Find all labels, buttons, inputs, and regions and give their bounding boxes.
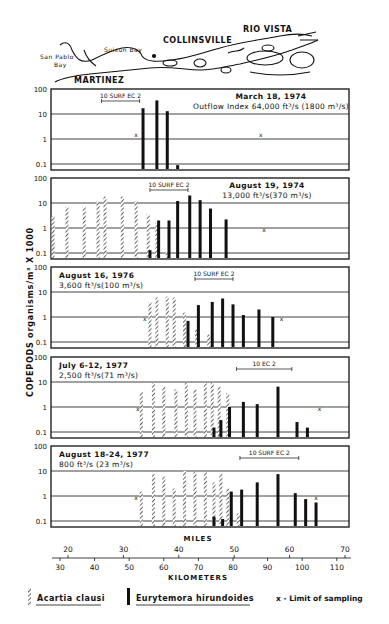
acartia-bar <box>162 387 165 437</box>
acartia-bar <box>204 383 207 437</box>
limit-of-sampling-marker: x <box>314 494 318 501</box>
limit-of-sampling-marker: x <box>134 131 138 138</box>
panel-2: 1001010.1x10 SURF EC 2August 19, 197413,… <box>34 175 349 259</box>
eurytemora-bar <box>276 387 279 437</box>
eurytemora-bar <box>294 493 297 526</box>
eurytemora-bar <box>197 305 200 347</box>
eurytemora-bar <box>148 250 151 258</box>
y-tick-label: 100 <box>34 443 47 451</box>
eurytemora-bar <box>176 165 179 169</box>
limit-of-sampling-marker: x <box>143 315 147 322</box>
y-tick-label: 1 <box>43 225 47 233</box>
y-tick-label: 10 <box>38 200 47 208</box>
acartia-bar <box>166 297 169 347</box>
y-tick-label: 0.1 <box>36 250 47 258</box>
map-label: San Pablo <box>40 53 74 60</box>
ec-range-label: 10 EC 2 <box>253 360 276 367</box>
acartia-bar <box>65 207 68 258</box>
y-tick-label: 1 <box>43 404 47 412</box>
panel-1: 1001010.1xx10 SURF EC 2March 18, 1974Out… <box>34 86 349 170</box>
acartia-bar <box>162 477 165 526</box>
eurytemora-bar <box>240 490 243 526</box>
eurytemora-bar <box>212 428 215 437</box>
panel-4: 1001010.1xx10 EC 2July 6-12, 19772,500 f… <box>34 354 349 438</box>
km-tick-label: 70 <box>194 563 204 572</box>
eurytemora-bar <box>211 302 214 347</box>
acartia-bar <box>204 472 207 526</box>
km-tick-label: 50 <box>124 563 134 572</box>
legend-eurytemora-label: Eurytemora hirundoides <box>136 594 254 603</box>
y-tick-label: 0.1 <box>36 339 47 347</box>
acartia-bar <box>183 471 186 526</box>
x-axis: MILES20304050607030405060708090100110KIL… <box>52 535 351 582</box>
acartia-bar <box>121 197 124 258</box>
map-island-3 <box>221 67 231 73</box>
eurytemora-bar <box>230 492 233 526</box>
suisun-bay-marker <box>153 55 156 58</box>
panel-subtitle: 2,500 ft³/s(71 m³/s) <box>59 371 138 380</box>
ec-range-label: 10 SURF EC 2 <box>100 92 141 99</box>
eurytemora-bar <box>296 422 299 437</box>
acartia-bar <box>207 334 210 347</box>
acartia-bar <box>148 302 151 347</box>
eurytemora-bar <box>155 100 158 169</box>
acartia-bar <box>155 298 158 347</box>
y-tick-label: 100 <box>34 86 47 94</box>
legend-limit-label: x - Limit of sampling <box>276 594 363 603</box>
mile-tick-label: 40 <box>174 545 184 554</box>
limit-of-sampling-marker: x <box>318 405 322 412</box>
acartia-bar <box>193 472 196 526</box>
panel-title: August 16, 1976 <box>59 271 134 280</box>
map-island-6 <box>262 45 274 51</box>
y-tick-label: 100 <box>34 175 47 183</box>
acartia-bar <box>140 492 143 526</box>
miles-axis-title: MILES <box>184 535 213 543</box>
map-slough <box>250 72 310 75</box>
legend-hatched-swatch <box>28 588 31 605</box>
y-tick-label: 0.1 <box>36 161 47 169</box>
eurytemora-bar <box>221 519 224 526</box>
panel-title: March 18, 1974 <box>236 92 307 101</box>
y-tick-label: 1 <box>43 136 47 144</box>
eurytemora-bar <box>187 321 190 347</box>
eurytemora-bar <box>188 195 191 258</box>
mile-tick-label: 30 <box>119 545 129 554</box>
y-tick-label: 100 <box>34 264 47 272</box>
ec-range-label: 10 SURF EC 2 <box>148 181 189 188</box>
eurytemora-bar <box>304 499 307 526</box>
eurytemora-bar <box>219 420 222 437</box>
acartia-bar <box>97 201 100 258</box>
y-tick-label: 0.1 <box>36 429 47 437</box>
ec-range-label: 10 SURF EC 2 <box>249 449 290 456</box>
eurytemora-bar <box>166 111 169 169</box>
mile-tick-label: 50 <box>229 545 239 554</box>
eurytemora-bar <box>176 201 179 258</box>
y-tick-label: 10 <box>38 468 47 476</box>
limit-of-sampling-marker: x <box>134 494 138 501</box>
limit-of-sampling-marker: x <box>262 226 266 233</box>
limit-of-sampling-marker: x <box>136 405 140 412</box>
map-island-2 <box>194 59 206 67</box>
acartia-bar <box>140 392 143 437</box>
limit-of-sampling-marker: x <box>259 131 263 138</box>
eurytemora-bar <box>199 200 202 258</box>
map-labels: RIO VISTACOLLINSVILLESuisun BaySan Pablo… <box>40 25 292 85</box>
acartia-bar <box>185 383 188 437</box>
km-tick-label: 90 <box>263 563 273 572</box>
panel-subtitle: Outflow Index 64,000 ft³/s (1800 m³/s) <box>193 102 349 111</box>
eurytemora-bar <box>257 309 260 347</box>
acartia-bar <box>237 513 240 526</box>
acartia-bar <box>83 207 86 258</box>
y-tick-label: 1 <box>43 493 47 501</box>
km-tick-label: 40 <box>90 563 100 572</box>
km-tick-label: 110 <box>330 563 345 572</box>
map-channel-1 <box>84 50 96 66</box>
eurytemora-bar <box>167 220 170 258</box>
acartia-bar <box>152 474 155 526</box>
map-label: Bay <box>54 61 67 69</box>
acartia-bar <box>52 216 55 258</box>
map-channel-2 <box>228 48 244 53</box>
km-tick-label: 80 <box>228 563 238 572</box>
eurytemora-bar <box>232 304 235 347</box>
panel-3: 1001010.1xx10 SURF EC 2August 16, 19763,… <box>34 264 349 348</box>
